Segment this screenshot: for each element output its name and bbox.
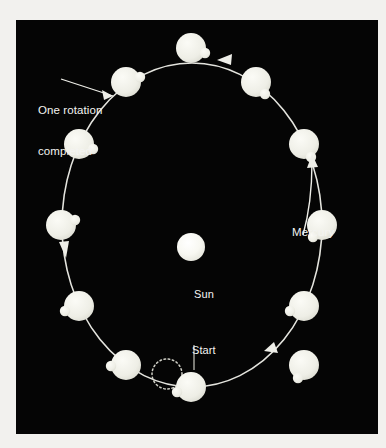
annotation-start: Start	[192, 344, 216, 357]
annotation-one-rotation-line1: One rotation	[38, 104, 103, 118]
planet-marker	[46, 210, 80, 240]
sun-body	[177, 233, 205, 261]
annotation-mercury: Mercury	[292, 226, 334, 240]
annotation-one-rotation-completed: One rotation completed	[38, 77, 103, 186]
planet-marker	[289, 129, 319, 162]
planet-marker	[289, 350, 319, 383]
planet-marker	[241, 67, 271, 99]
starfield-panel: One rotation completed Mercury Sun Start…	[16, 20, 378, 434]
planet-marker	[285, 291, 319, 321]
planet-marker	[60, 291, 94, 321]
orbit-arrow-top	[217, 54, 232, 65]
planet-marker	[176, 33, 210, 63]
planet-marker	[106, 350, 141, 380]
orbit-arrow-bottom-right	[264, 342, 278, 353]
figure-caption: One orbit, One and one-half rotations	[135, 420, 274, 434]
planet-marker-one-rotation	[111, 67, 145, 97]
annotation-one-rotation-line2: completed	[38, 145, 103, 159]
planet-marker	[172, 372, 206, 402]
annotation-sun: Sun	[194, 288, 214, 301]
figure-panel: One rotation completed Mercury Sun Start…	[0, 0, 386, 448]
